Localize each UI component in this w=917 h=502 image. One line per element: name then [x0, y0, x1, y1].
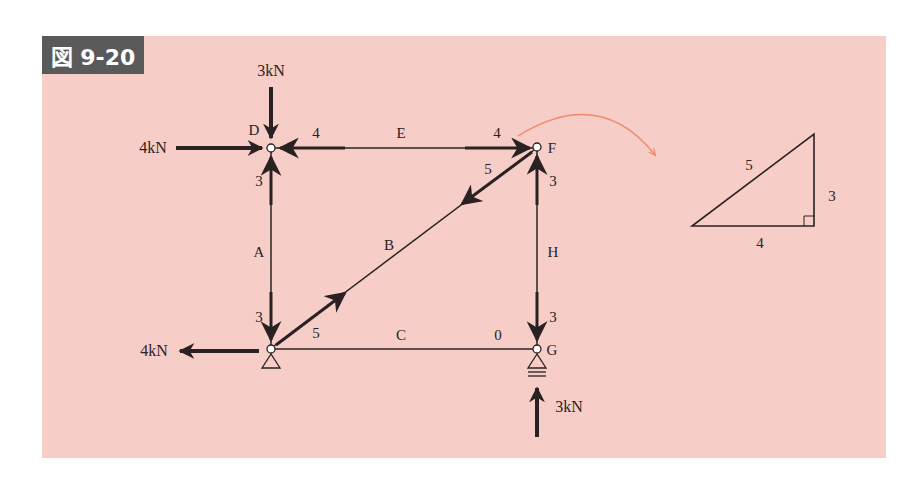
member-B-top-force: 5 [484, 161, 492, 177]
load-top-D-label: 3kN [257, 62, 285, 79]
triangle-hypotenuse-label: 5 [745, 157, 753, 173]
node-D [267, 144, 275, 152]
node-F [533, 143, 541, 151]
member-E-left-force: 4 [312, 125, 320, 141]
load-top-D: 3kN [257, 62, 285, 138]
member-H-label: H [548, 244, 559, 260]
ratio-triangle: 5 3 4 [692, 134, 836, 251]
load-left-bottom-label: 4kN [140, 342, 168, 359]
truss-diagram: 4 E 4 3 A 3 3 H 3 5 B 5 C 0 3kN 4kN 4kN … [0, 0, 917, 502]
node-G-label: G [547, 342, 558, 358]
node-F-label: F [548, 140, 556, 156]
member-H-bottom-force: 3 [549, 309, 557, 325]
load-left-bottom: 4kN [140, 342, 259, 359]
roller-support-icon [528, 354, 546, 376]
member-E-label: E [396, 125, 405, 141]
triangle-horizontal-label: 4 [756, 235, 764, 251]
load-bottom-G-label: 3kN [555, 398, 583, 415]
member-C-label: C [396, 327, 406, 343]
member-B [274, 150, 534, 346]
member-A-top-force: 3 [255, 173, 263, 189]
load-bottom-G: 3kN [537, 388, 583, 437]
member-B-label: B [384, 237, 394, 253]
member-H-top-force: 3 [549, 173, 557, 189]
member-C-right-force: 0 [494, 327, 502, 343]
member-B-bottom-force: 5 [312, 325, 320, 341]
member-A-label: A [254, 244, 265, 260]
pin-support-icon [262, 354, 280, 368]
member-E-right-force: 4 [493, 125, 501, 141]
load-left-D: 4kN [139, 139, 262, 156]
triangle-vertical-label: 3 [828, 188, 836, 204]
member-A-bottom-force: 3 [255, 309, 263, 325]
load-left-D-label: 4kN [139, 139, 167, 156]
node-G [533, 345, 541, 353]
node-D-label: D [249, 122, 260, 138]
node-bottom-left [267, 345, 275, 353]
